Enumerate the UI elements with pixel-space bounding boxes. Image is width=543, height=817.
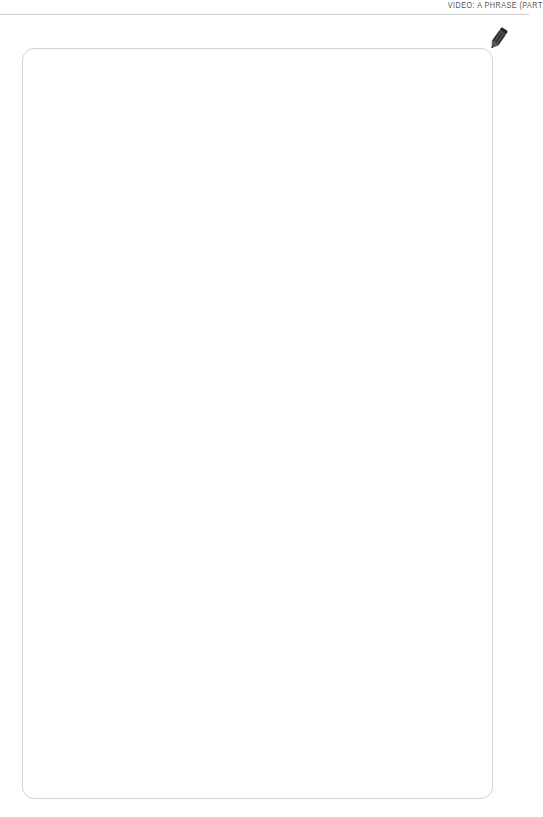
pencil-icon: [487, 26, 509, 52]
header-divider: [0, 14, 529, 15]
notes-writing-area[interactable]: [22, 48, 493, 799]
page-header-title: VIDEO: A PHRASE (PART: [448, 0, 543, 10]
